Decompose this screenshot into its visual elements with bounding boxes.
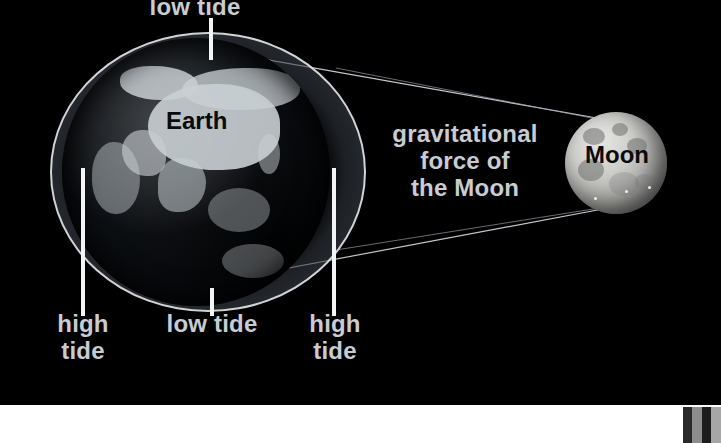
label-gravitational-force: gravitational force of the Moon (374, 120, 556, 201)
color-swatch (683, 407, 692, 443)
earth-globe (62, 38, 330, 306)
label-moon: Moon (585, 142, 649, 168)
label-high-tide-right: high tide (286, 310, 384, 364)
color-swatch (692, 407, 702, 443)
color-swatch-strip (683, 407, 721, 443)
tick-high-tide-left (81, 168, 85, 316)
label-low-tide-top: low tide (133, 0, 257, 20)
color-swatch (702, 407, 711, 443)
label-high-tide-left: high tide (34, 310, 132, 364)
tick-high-tide-right (332, 168, 336, 316)
moon-highlight (594, 197, 597, 200)
bottom-white-strip (0, 405, 721, 443)
moon-highlight (648, 186, 651, 189)
label-earth: Earth (166, 108, 227, 134)
tick-low-tide-top (209, 18, 213, 60)
moon-highlight (625, 190, 628, 193)
label-low-tide-bottom: low tide (145, 310, 279, 337)
moon-crater (612, 123, 628, 136)
color-swatch (711, 407, 721, 443)
tides-diagram: low tide high tide low tide high tide gr… (0, 0, 721, 443)
earth-terminator (62, 38, 330, 306)
